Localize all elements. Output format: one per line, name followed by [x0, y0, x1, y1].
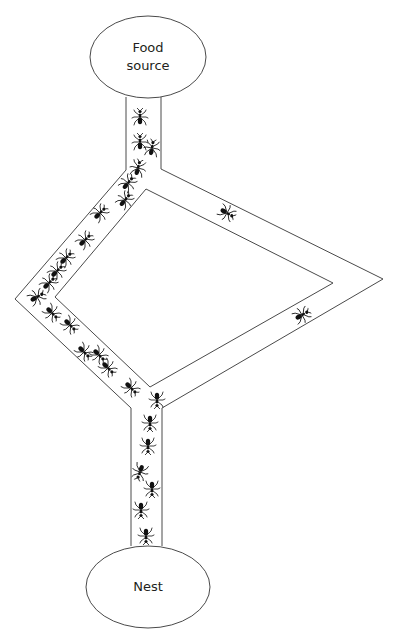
- ant-icon: [141, 414, 159, 432]
- ant-icon: [143, 480, 161, 498]
- ant-icon: [132, 501, 150, 519]
- food-source-label-line1: Food: [88, 39, 208, 57]
- ant-icon: [142, 138, 163, 159]
- nest-label: Nest: [88, 578, 208, 596]
- ant-path-diagram: [0, 0, 397, 639]
- food-source-label: Food source: [88, 39, 208, 75]
- ant-icon: [139, 437, 157, 455]
- food-source-label-line2: source: [88, 57, 208, 75]
- path-outer-boundary-right: [161, 97, 383, 546]
- ant-icon: [148, 391, 166, 409]
- ant-icon: [131, 108, 149, 126]
- ant-icon: [137, 527, 155, 545]
- nest-label-text: Nest: [88, 578, 208, 596]
